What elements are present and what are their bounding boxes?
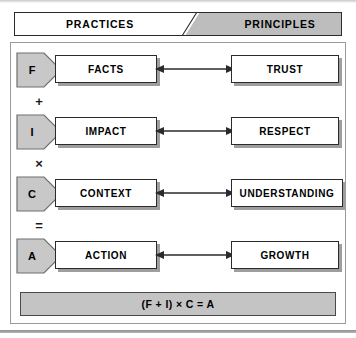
formula-text: (F + I) × C = A xyxy=(142,298,215,310)
tag-letter-c: C xyxy=(16,176,48,212)
connector-arrow-context-understanding xyxy=(155,186,235,200)
row-context: C CONTEXT UNDERSTANDING xyxy=(0,176,356,212)
header-practices-label: PRACTICES xyxy=(14,12,186,36)
tag-letter-a: A xyxy=(16,238,48,274)
practice-box-context: CONTEXT xyxy=(55,179,157,207)
header-banner: PRACTICES PRINCIPLES xyxy=(14,12,342,36)
tag-letter-f: F xyxy=(16,52,48,88)
practice-box-facts: FACTS xyxy=(55,55,157,83)
practice-box-impact: IMPACT xyxy=(55,117,157,145)
scan-edge-top xyxy=(0,0,356,3)
connector-arrow-facts-trust xyxy=(155,62,235,76)
operator-equals: = xyxy=(22,218,56,233)
practice-label-context: CONTEXT xyxy=(80,188,132,199)
principle-label-growth: GROWTH xyxy=(260,250,309,261)
row-facts: F FACTS TRUST xyxy=(0,52,356,88)
principle-box-trust: TRUST xyxy=(231,55,339,83)
practice-label-impact: IMPACT xyxy=(85,126,126,137)
connector-arrow-action-growth xyxy=(155,248,235,262)
diagram-page: PRACTICES PRINCIPLES F FACTS TRUST + xyxy=(0,0,356,338)
connector-arrow-impact-respect xyxy=(155,124,235,138)
scan-edge-bottom xyxy=(0,330,356,333)
principle-label-trust: TRUST xyxy=(267,64,303,75)
principle-label-respect: RESPECT xyxy=(259,126,310,137)
tag-letter-i: I xyxy=(16,114,48,150)
formula-bar: (F + I) × C = A xyxy=(20,292,336,316)
row-impact: I IMPACT RESPECT xyxy=(0,114,356,150)
header-principles-label: PRINCIPLES xyxy=(204,12,356,36)
operator-multiply: × xyxy=(22,156,56,171)
principle-box-respect: RESPECT xyxy=(231,117,339,145)
row-action: A ACTION GROWTH xyxy=(0,238,356,274)
practice-label-facts: FACTS xyxy=(88,64,124,75)
practice-box-action: ACTION xyxy=(55,241,157,269)
practice-label-action: ACTION xyxy=(85,250,127,261)
operator-plus: + xyxy=(22,94,56,109)
principle-box-understanding: UNDERSTANDING xyxy=(231,179,343,207)
principle-box-growth: GROWTH xyxy=(231,241,339,269)
principle-label-understanding: UNDERSTANDING xyxy=(240,188,335,199)
